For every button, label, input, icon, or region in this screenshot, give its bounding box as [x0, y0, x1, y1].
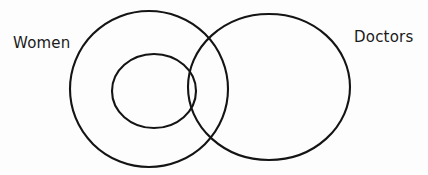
- venn-diagram-canvas: [0, 0, 428, 175]
- doctors-set-label: Doctors: [354, 30, 413, 45]
- women-set-label: Women: [13, 36, 70, 51]
- inner-subset-circle: [112, 54, 196, 128]
- women-set-circle: [70, 11, 228, 167]
- doctors-set-circle: [188, 14, 350, 160]
- venn-diagram: Women Doctors: [0, 0, 428, 175]
